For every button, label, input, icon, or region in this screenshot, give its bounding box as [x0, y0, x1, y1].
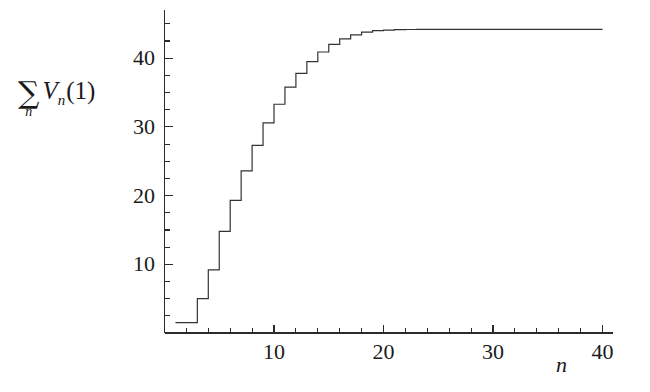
- summation-symbol: ∑ n: [18, 80, 39, 119]
- y-axis-function-term: Vn(1): [42, 78, 95, 108]
- x-axis-label: n: [556, 352, 567, 378]
- y-axis-label: ∑ n Vn(1): [18, 78, 95, 117]
- data-series-step-line: [175, 29, 602, 322]
- axes-group: [165, 10, 614, 333]
- function-subscript: n: [58, 92, 66, 108]
- y-tick-label: 30: [105, 114, 155, 140]
- x-tick-label: 10: [263, 339, 285, 365]
- x-tick-label: 30: [482, 339, 504, 365]
- function-argument: (1): [66, 77, 95, 104]
- y-tick-label: 10: [105, 251, 155, 277]
- x-tick-label: 40: [592, 339, 614, 365]
- sigma-icon: ∑: [18, 80, 39, 106]
- step-curve: [175, 29, 602, 322]
- y-tick-label: 40: [105, 45, 155, 71]
- y-tick-label: 20: [105, 183, 155, 209]
- function-name: V: [42, 77, 57, 104]
- chart-plot-area: [0, 0, 650, 392]
- x-tick-label: 20: [373, 339, 395, 365]
- chart-figure: ∑ n Vn(1) n 10203040 10203040: [0, 0, 650, 392]
